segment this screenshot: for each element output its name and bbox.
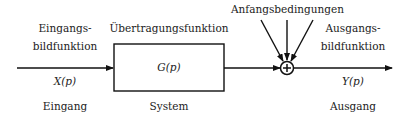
system-block-text: G(p)	[114, 61, 224, 73]
initial-conditions-label: Anfangsbedingungen	[230, 3, 345, 15]
input-top-label-line2: bildfunktion	[30, 40, 100, 52]
system-top-label: Übertragungsfunktion	[104, 22, 234, 34]
system-bottom-label: System	[114, 100, 224, 112]
initial-condition-arrow-left	[261, 20, 283, 61]
initial-condition-arrow-right	[291, 20, 313, 61]
input-bottom-label: Eingang	[30, 100, 100, 112]
input-signal-label: X(p)	[30, 75, 100, 87]
output-bottom-label: Ausgang	[318, 100, 388, 112]
output-top-label-line2: bildfunktion	[318, 40, 388, 52]
input-top-label-line1: Eingangs-	[30, 22, 100, 34]
output-signal-label: Y(p)	[318, 75, 388, 87]
output-top-label-line1: Ausgangs-	[318, 22, 388, 34]
block-diagram: Eingangs- bildfunktion X(p) Eingang Über…	[0, 0, 404, 118]
